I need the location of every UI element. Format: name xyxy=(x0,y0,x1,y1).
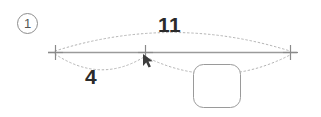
diagram-canvas: 1 11 4 xyxy=(0,0,321,117)
step-number-badge: 1 xyxy=(17,13,38,34)
mouse-cursor-icon xyxy=(143,54,153,68)
dimension-label-overall: 11 xyxy=(158,14,181,35)
dimension-label-segment: 4 xyxy=(85,66,97,87)
